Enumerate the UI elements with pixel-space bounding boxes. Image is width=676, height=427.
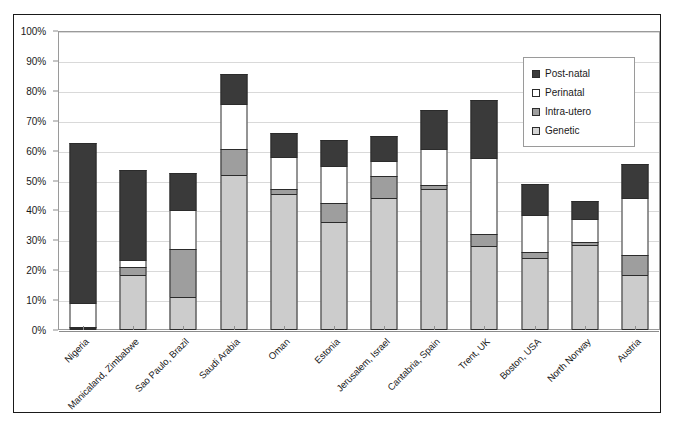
- stacked-bar[interactable]: [320, 140, 347, 330]
- bar-segment-post-natal[interactable]: [320, 140, 347, 165]
- bar-segment-intra-utero[interactable]: [170, 249, 197, 297]
- x-axis: NigeriaManicaland, ZimbabweSao Paulo, Br…: [58, 330, 660, 427]
- bar-segment-perinatal[interactable]: [170, 210, 197, 249]
- bar-segment-perinatal[interactable]: [521, 215, 548, 252]
- bar-segment-genetic[interactable]: [471, 246, 498, 330]
- bar-segment-genetic[interactable]: [270, 194, 297, 330]
- stacked-bar[interactable]: [220, 74, 247, 330]
- bar-segment-genetic[interactable]: [320, 222, 347, 330]
- bar-segment-intra-utero[interactable]: [120, 267, 147, 274]
- x-axis-tick-mark: [635, 326, 636, 330]
- bar-segment-perinatal[interactable]: [320, 166, 347, 203]
- bar-segment-post-natal[interactable]: [270, 133, 297, 157]
- legend-swatch-icon: [532, 70, 540, 78]
- legend-item-label: Post-natal: [545, 68, 590, 79]
- x-axis-tick-mark: [234, 326, 235, 330]
- stacked-bar[interactable]: [471, 100, 498, 330]
- legend-swatch-icon: [532, 127, 540, 135]
- stacked-bar[interactable]: [170, 173, 197, 330]
- x-axis-tick-mark: [183, 326, 184, 330]
- bar-segment-genetic[interactable]: [220, 175, 247, 330]
- bar-segment-perinatal[interactable]: [421, 149, 448, 185]
- y-axis-tick-label: 0%: [32, 325, 46, 336]
- bar-slot: [58, 31, 108, 330]
- bar-segment-perinatal[interactable]: [571, 219, 598, 241]
- x-axis-tick-mark: [133, 326, 134, 330]
- x-axis-tick-mark: [484, 326, 485, 330]
- y-axis-tick-label: 40%: [26, 205, 46, 216]
- x-axis-tick-label: Austria: [614, 336, 642, 364]
- bar-segment-intra-utero[interactable]: [371, 176, 398, 198]
- y-axis-tick-label: 50%: [26, 175, 46, 186]
- bar-segment-post-natal[interactable]: [120, 170, 147, 260]
- bar-segment-genetic[interactable]: [521, 258, 548, 330]
- bar-segment-genetic[interactable]: [571, 245, 598, 330]
- legend-item-perinatal[interactable]: Perinatal: [532, 83, 628, 102]
- bar-segment-post-natal[interactable]: [371, 136, 398, 161]
- stacked-bar[interactable]: [120, 170, 147, 330]
- y-axis-tick-label: 90%: [26, 55, 46, 66]
- bar-slot: [259, 31, 309, 330]
- legend-swatch-icon: [532, 89, 540, 97]
- bar-segment-genetic[interactable]: [120, 275, 147, 330]
- x-axis-tick-mark: [434, 326, 435, 330]
- bar-segment-post-natal[interactable]: [471, 100, 498, 158]
- stacked-bar[interactable]: [371, 136, 398, 330]
- legend-item-postnatal[interactable]: Post-natal: [532, 64, 628, 83]
- bar-segment-post-natal[interactable]: [621, 164, 648, 198]
- bar-segment-intra-utero[interactable]: [471, 234, 498, 246]
- bar-slot: [309, 31, 359, 330]
- legend-item-label: Perinatal: [545, 87, 584, 98]
- x-axis-tick-mark: [535, 326, 536, 330]
- x-axis-tick-label: Estonia: [312, 336, 342, 366]
- x-axis-tick-label: Nigeria: [62, 336, 91, 365]
- bar-segment-intra-utero[interactable]: [320, 203, 347, 222]
- stacked-bar[interactable]: [571, 201, 598, 330]
- bar-segment-perinatal[interactable]: [471, 158, 498, 234]
- legend-item-genetic[interactable]: Genetic: [532, 121, 628, 140]
- bar-slot: [158, 31, 208, 330]
- x-axis-label-slot: Austria: [610, 330, 660, 420]
- y-axis-tick-label: 10%: [26, 295, 46, 306]
- stacked-bar[interactable]: [70, 143, 97, 330]
- bar-segment-genetic[interactable]: [371, 198, 398, 330]
- x-axis-label-slot: Cantabria, Spain: [409, 330, 459, 420]
- stacked-bar[interactable]: [521, 184, 548, 331]
- y-axis-tick-label: 20%: [26, 265, 46, 276]
- x-axis-label-slot: Saudi Arabia: [209, 330, 259, 420]
- x-axis-tick-label: Trent, UK: [457, 336, 493, 372]
- bar-segment-post-natal[interactable]: [70, 143, 97, 303]
- bar-segment-perinatal[interactable]: [371, 161, 398, 176]
- bar-segment-perinatal[interactable]: [621, 198, 648, 255]
- bar-segment-perinatal[interactable]: [70, 303, 97, 327]
- y-axis-tick-label: 60%: [26, 145, 46, 156]
- bar-segment-intra-utero[interactable]: [220, 149, 247, 174]
- legend-item-label: Intra-utero: [545, 106, 591, 117]
- stacked-bar[interactable]: [421, 110, 448, 330]
- bar-segment-perinatal[interactable]: [270, 157, 297, 190]
- bar-segment-intra-utero[interactable]: [621, 255, 648, 274]
- legend-item-intrautero[interactable]: Intra-utero: [532, 102, 628, 121]
- x-axis-tick-mark: [384, 326, 385, 330]
- x-axis-tick-mark: [334, 326, 335, 330]
- x-axis-tick-mark: [284, 326, 285, 330]
- legend-item-label: Genetic: [545, 125, 579, 136]
- bar-segment-perinatal[interactable]: [220, 104, 247, 149]
- x-axis-tick-mark: [585, 326, 586, 330]
- bar-slot: [359, 31, 409, 330]
- bar-slot: [409, 31, 459, 330]
- y-axis: 0%10%20%30%40%50%60%70%80%90%100%: [0, 0, 58, 331]
- bar-segment-perinatal[interactable]: [120, 260, 147, 267]
- bar-slot: [209, 31, 259, 330]
- stacked-bar[interactable]: [621, 164, 648, 330]
- bar-segment-genetic[interactable]: [621, 275, 648, 330]
- bar-segment-post-natal[interactable]: [421, 110, 448, 149]
- y-axis-tick-label: 80%: [26, 85, 46, 96]
- bar-segment-post-natal[interactable]: [170, 173, 197, 210]
- legend-swatch-icon: [532, 108, 540, 116]
- bar-segment-post-natal[interactable]: [220, 74, 247, 104]
- bar-segment-post-natal[interactable]: [521, 184, 548, 215]
- bar-segment-genetic[interactable]: [421, 189, 448, 330]
- bar-segment-post-natal[interactable]: [571, 201, 598, 219]
- stacked-bar[interactable]: [270, 133, 297, 330]
